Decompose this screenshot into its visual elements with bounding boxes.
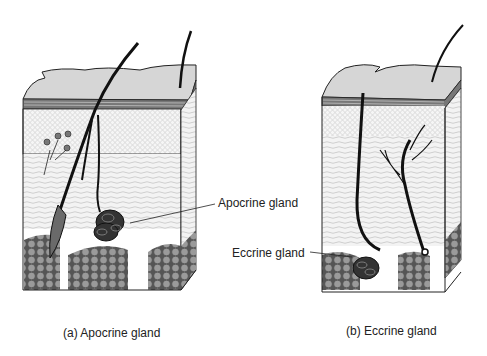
fat-lobule [148, 244, 181, 290]
panel-apocrine [23, 31, 215, 290]
eccrine-gland-coil [353, 257, 379, 279]
apocrine-gland-label: Apocrine gland [218, 196, 298, 210]
fat-lobule [398, 252, 430, 290]
epidermis-surface [322, 65, 461, 100]
fat-lobule [68, 246, 128, 290]
skin-diagram [0, 0, 487, 356]
eccrine-gland-label: Eccrine gland [232, 246, 305, 260]
panel-eccrine [310, 25, 463, 292]
caption-b: (b) Eccrine gland [346, 324, 437, 338]
caption-a: (a) Apocrine gland [63, 326, 160, 340]
